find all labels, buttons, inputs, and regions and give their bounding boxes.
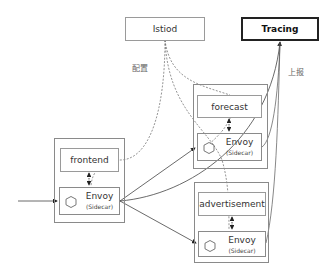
hexagon-icon [65,196,77,208]
sidecar-label: (Sidecar) [220,149,259,156]
advertisement-envoy-sidecar: Envoy (Sidecar) [198,231,266,257]
sidecar-label: (Sidecar) [221,247,263,254]
hexagon-icon [204,240,216,252]
envoy-label: Envoy [82,191,117,201]
hexagon-icon [203,142,215,154]
frontend-envoy-sidecar: Envoy (Sidecar) [59,187,120,215]
advertisement-label: advertisement [199,199,265,209]
frontend-label: frontend [70,155,108,165]
forecast-label: forecast [211,102,247,112]
config-edge-label: 配置 [132,62,148,73]
forecast-envoy-sidecar: Envoy (Sidecar) [197,133,262,161]
envoy-label: Envoy [220,137,259,147]
report-edge-label: 上报 [288,66,304,77]
sidecar-label: (Sidecar) [82,203,117,210]
istiod-label: Istiod [153,24,178,34]
connector-lines [0,0,330,276]
advertisement-service: advertisement [198,192,266,216]
forecast-service: forecast [197,95,262,118]
istiod-node: Istiod [125,17,205,41]
tracing-label: Tracing [262,24,299,34]
envoy-label: Envoy [221,235,263,245]
frontend-service: frontend [60,148,119,172]
tracing-node: Tracing [241,17,319,41]
